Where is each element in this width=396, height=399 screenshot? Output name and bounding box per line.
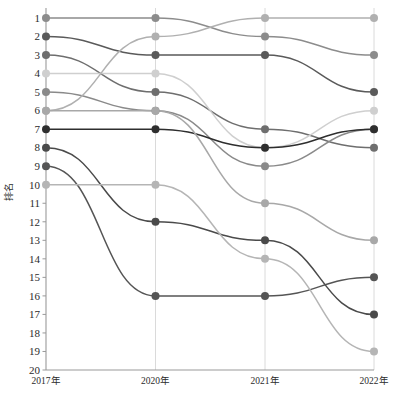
series-marker-S6-2021年 <box>261 14 269 22</box>
series-marker-S8-2021年 <box>261 236 269 244</box>
series-marker-S7-2020年 <box>152 125 160 133</box>
y-axis-title-text: 排名 <box>3 183 14 201</box>
series-marker-S7-2017年 <box>42 125 50 133</box>
series-marker-S10-2020年 <box>152 181 160 189</box>
y-tick-label-10: 10 <box>29 179 41 191</box>
series-marker-S1-2020年 <box>152 14 160 22</box>
axis-lines <box>46 8 374 370</box>
series-marker-S9-2020年 <box>152 292 160 300</box>
series-marker-S2-2021年 <box>261 51 269 59</box>
series-marker-S5-2021年 <box>261 162 269 170</box>
y-tick-label-19: 19 <box>29 345 41 357</box>
series-marker-S1-2021年 <box>261 33 269 41</box>
y-tick-label-13: 13 <box>29 234 41 246</box>
series-marker-S2-2020年 <box>152 51 160 59</box>
series-marker-S3-2020年 <box>152 88 160 96</box>
series-marker-S7-2022年 <box>370 125 378 133</box>
series-marker-S11-2021年 <box>261 199 269 207</box>
series-marker-S11-2020年 <box>152 107 160 115</box>
y-tick-label-11: 11 <box>29 197 40 209</box>
series-line-S2 <box>46 37 374 93</box>
series-marker-S11-2017年 <box>42 107 50 115</box>
series-marker-S2-2022年 <box>370 88 378 96</box>
y-tick-label-20: 20 <box>29 364 41 376</box>
rank-bump-chart: 1234567891011121314151617181920 2017年202… <box>0 0 396 399</box>
series-marker-S1-2022年 <box>370 51 378 59</box>
y-tick-label-17: 17 <box>29 308 41 320</box>
x-axis-tick-labels: 2017年2020年2021年2022年 <box>32 375 389 386</box>
series-line-S3 <box>46 55 374 148</box>
series-line-S8 <box>46 148 374 315</box>
series-marker-S3-2022年 <box>370 144 378 152</box>
y-tick-label-9: 9 <box>35 160 41 172</box>
series-marker-S4-2020年 <box>152 70 160 78</box>
x-tick-label-2020年: 2020年 <box>141 375 170 386</box>
series-marker-S8-2022年 <box>370 310 378 318</box>
series-marker-S2-2017年 <box>42 33 50 41</box>
series-marker-S4-2022年 <box>370 107 378 115</box>
series-marker-S7-2021年 <box>261 144 269 152</box>
y-axis-title: 排名 <box>3 183 14 201</box>
series-marker-S9-2017年 <box>42 162 50 170</box>
y-tick-label-6: 6 <box>35 104 41 116</box>
chart-canvas: 1234567891011121314151617181920 2017年202… <box>0 0 396 399</box>
y-axis-tick-labels: 1234567891011121314151617181920 <box>29 12 46 376</box>
series-marker-S11-2022年 <box>370 236 378 244</box>
y-tick-label-15: 15 <box>29 271 41 283</box>
y-tick-label-18: 18 <box>29 327 41 339</box>
series-marker-S6-2022年 <box>370 14 378 22</box>
series-line-S6 <box>46 18 374 111</box>
x-tick-label-2022年: 2022年 <box>360 375 389 386</box>
series-line-S1 <box>46 18 374 55</box>
y-tick-label-7: 7 <box>35 123 41 135</box>
y-tick-label-5: 5 <box>35 86 41 98</box>
series-marker-S1-2017年 <box>42 14 50 22</box>
y-tick-label-16: 16 <box>29 290 41 302</box>
series-marker-S3-2021年 <box>261 125 269 133</box>
y-tick-label-4: 4 <box>35 67 41 79</box>
series-marker-S5-2017年 <box>42 88 50 96</box>
series-marker-S6-2020年 <box>152 33 160 41</box>
series-marker-S10-2022年 <box>370 347 378 355</box>
series-marker-S9-2021年 <box>261 292 269 300</box>
series-marker-S3-2017年 <box>42 51 50 59</box>
x-tick-label-2021年: 2021年 <box>251 375 280 386</box>
gridlines <box>156 8 375 370</box>
y-tick-label-3: 3 <box>35 49 41 61</box>
y-tick-label-8: 8 <box>35 141 41 153</box>
series-lines <box>46 18 374 351</box>
series-marker-S8-2017年 <box>42 144 50 152</box>
y-tick-label-12: 12 <box>29 216 40 228</box>
series-marker-S9-2022年 <box>370 273 378 281</box>
series-marker-S10-2021年 <box>261 255 269 263</box>
series-line-S10 <box>46 185 374 352</box>
series-marker-S8-2020年 <box>152 218 160 226</box>
series-marker-S4-2017年 <box>42 70 50 78</box>
x-tick-label-2017年: 2017年 <box>32 375 61 386</box>
y-tick-label-14: 14 <box>29 253 41 265</box>
series-marker-S10-2017年 <box>42 181 50 189</box>
y-tick-label-1: 1 <box>35 12 41 24</box>
y-tick-label-2: 2 <box>35 30 41 42</box>
